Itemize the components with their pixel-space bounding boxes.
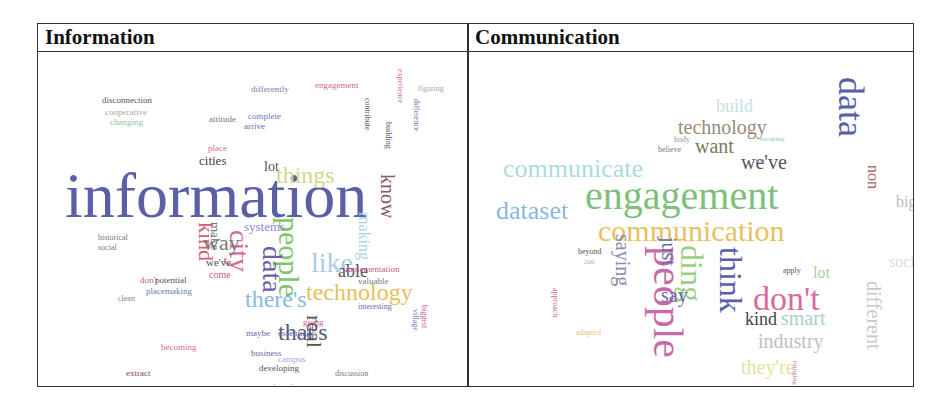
cloud-word: essentially bbox=[278, 329, 316, 338]
cloud-word: know bbox=[378, 174, 398, 218]
cloud-word: think bbox=[715, 247, 747, 313]
cloud-word: kind bbox=[745, 310, 777, 328]
cloud-word: cities bbox=[199, 154, 226, 167]
cloud-word: differently bbox=[251, 85, 289, 94]
cloud-word: lot bbox=[264, 160, 279, 174]
cloud-word: engineering bbox=[260, 383, 302, 386]
cloud-word: place bbox=[208, 144, 227, 153]
cloud-word: experience bbox=[396, 69, 404, 104]
cloud-word: make bbox=[209, 222, 222, 250]
cloud-word: campus bbox=[278, 355, 306, 364]
header-information: Information bbox=[38, 24, 468, 52]
cloud-word: historical bbox=[98, 234, 128, 242]
cloud-word: engagement bbox=[315, 81, 358, 90]
cloud-word: beyond bbox=[578, 248, 602, 256]
word-cloud-communication: communicationsengagementcommunicationcom… bbox=[469, 52, 913, 386]
cloud-word: breaking bbox=[760, 136, 785, 143]
cloud-word: want bbox=[695, 136, 734, 156]
cloud-word: becoming bbox=[161, 343, 197, 352]
cloud-word: dataset bbox=[496, 198, 568, 224]
cloud-word: clean bbox=[118, 295, 135, 303]
cloud-word: we've bbox=[206, 257, 231, 268]
cloud-word: things bbox=[276, 163, 335, 187]
cloud-word: maybe bbox=[246, 329, 270, 338]
cloud-word: adapted bbox=[576, 329, 601, 337]
cloud-word: bringing bbox=[791, 361, 798, 385]
cloud-word: building bbox=[384, 122, 392, 149]
cloud-word: non bbox=[865, 165, 881, 189]
cloud-word: implementation bbox=[343, 265, 400, 274]
cloud-word: social bbox=[98, 244, 117, 252]
cloud-word: come bbox=[209, 270, 231, 280]
cloud-word: apply bbox=[783, 267, 801, 275]
cloud-word: village bbox=[411, 309, 419, 331]
cloud-word: valuable bbox=[358, 277, 389, 286]
cloud-word: placemaking bbox=[146, 287, 192, 296]
cloud-word: potential bbox=[155, 276, 187, 285]
cloud-word: difference bbox=[412, 99, 420, 131]
cloud-word: big bbox=[896, 194, 913, 210]
cloud-word: 200 bbox=[584, 259, 595, 266]
cloud-word: approach bbox=[551, 288, 559, 317]
cloud-word: making bbox=[356, 212, 372, 260]
cloud-word: systems bbox=[244, 220, 285, 233]
cloud-word: social bbox=[889, 254, 913, 270]
cloud-word: industry bbox=[758, 331, 824, 351]
cloud-word: build bbox=[716, 97, 753, 115]
cloud-word: say bbox=[661, 285, 688, 305]
cloud-word: developing bbox=[259, 364, 299, 373]
cloud-word: contribute bbox=[363, 98, 371, 130]
cloud-word: disconnection bbox=[102, 96, 152, 105]
cloud-word: complete bbox=[248, 112, 281, 121]
cloud-word: changing bbox=[110, 118, 143, 127]
header-communication: Communication bbox=[468, 24, 913, 52]
cloud-word: technology bbox=[678, 117, 767, 137]
cloud-word: communicate bbox=[503, 156, 643, 182]
cloud-word: extract bbox=[126, 369, 150, 378]
cloud-word: just bbox=[659, 237, 679, 266]
cloud-word: saying bbox=[613, 234, 633, 286]
cloud-word: figuring bbox=[418, 85, 444, 93]
cloud-word: cooperative bbox=[105, 108, 147, 117]
cloud-word: arrive bbox=[244, 122, 265, 131]
cloud-word: lot bbox=[813, 265, 830, 281]
comparison-table: Information Communication informationtec… bbox=[37, 23, 914, 387]
cloud-word: smart bbox=[781, 308, 825, 328]
cloud-word: going bbox=[303, 318, 324, 327]
word-cloud-information: informationtechnologypeoplethere'sthat's… bbox=[38, 52, 467, 386]
cloud-word: data bbox=[258, 246, 286, 293]
cloud-word: business bbox=[251, 349, 282, 358]
cloud-word: different bbox=[864, 281, 884, 350]
cloud-word: they're bbox=[741, 357, 795, 377]
cloud-word: believe bbox=[658, 146, 681, 154]
cloud-word: data bbox=[833, 77, 869, 137]
cloud-word: discussion bbox=[335, 370, 368, 378]
cloud-word: 300 bbox=[754, 158, 765, 165]
cloud-word: attitude bbox=[209, 115, 236, 124]
cloud-word: body bbox=[674, 136, 690, 144]
cloud-word: biggest bbox=[420, 305, 428, 328]
cloud-word: interesting bbox=[358, 303, 392, 311]
